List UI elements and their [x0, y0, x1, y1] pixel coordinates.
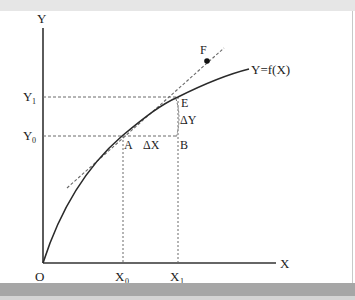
derivative-diagram: Y X O Y=f(X) Y 1 Y 0 X 0 X 1 A ΔX B E ΔY… — [0, 0, 355, 300]
x-axis-label: X — [280, 256, 290, 271]
point-f-marker — [204, 58, 210, 64]
x1-label: X — [170, 269, 180, 284]
delta-y-label: ΔY — [180, 113, 197, 127]
origin-label: O — [35, 269, 44, 284]
point-f-label: F — [200, 43, 207, 57]
point-a-label: A — [124, 138, 133, 152]
curve-y-fx — [43, 69, 249, 263]
y0-subscript: 0 — [32, 136, 36, 145]
bottom-band-lower — [0, 296, 355, 300]
x0-label: X — [115, 269, 125, 284]
delta-x-label: ΔX — [143, 138, 160, 152]
point-b-label: B — [180, 138, 188, 152]
y1-subscript: 1 — [32, 97, 36, 106]
y-axis-label: Y — [37, 11, 47, 26]
point-e-label: E — [181, 96, 188, 110]
curve-label: Y=f(X) — [251, 62, 290, 77]
